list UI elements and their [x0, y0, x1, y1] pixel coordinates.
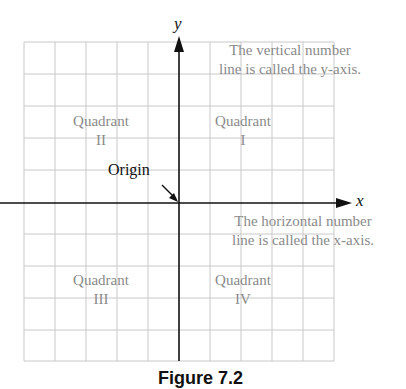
quadrant-i-label: Quadrant I: [200, 112, 286, 150]
x-axis-annotation: The horizontal number line is called the…: [198, 212, 406, 250]
quadrant-numeral: III: [58, 290, 144, 309]
annotation-line: The vertical number: [190, 41, 390, 60]
quadrant-name: Quadrant: [58, 271, 144, 290]
quadrant-numeral: I: [200, 131, 286, 150]
origin-label: Origin: [108, 161, 150, 179]
x-axis-arrow-icon: [336, 198, 352, 208]
y-axis-label: y: [174, 14, 182, 34]
quadrant-iv-label: Quadrant IV: [200, 271, 286, 309]
quadrant-name: Quadrant: [200, 112, 286, 131]
quadrant-name: Quadrant: [58, 112, 144, 131]
quadrant-name: Quadrant: [200, 271, 286, 290]
y-axis-annotation: The vertical number line is called the y…: [190, 41, 390, 79]
figure-caption: Figure 7.2: [158, 368, 243, 389]
annotation-line: line is called the x-axis.: [198, 231, 406, 250]
annotation-line: The horizontal number: [198, 212, 406, 231]
quadrant-numeral: IV: [200, 290, 286, 309]
annotation-line: line is called the y-axis.: [190, 60, 390, 79]
quadrant-iii-label: Quadrant III: [58, 271, 144, 309]
y-axis-arrow-icon: [174, 36, 184, 52]
origin-arrow-icon: [169, 193, 178, 202]
quadrant-ii-label: Quadrant II: [58, 112, 144, 150]
x-axis-label: x: [356, 191, 364, 211]
quadrant-numeral: II: [58, 131, 144, 150]
